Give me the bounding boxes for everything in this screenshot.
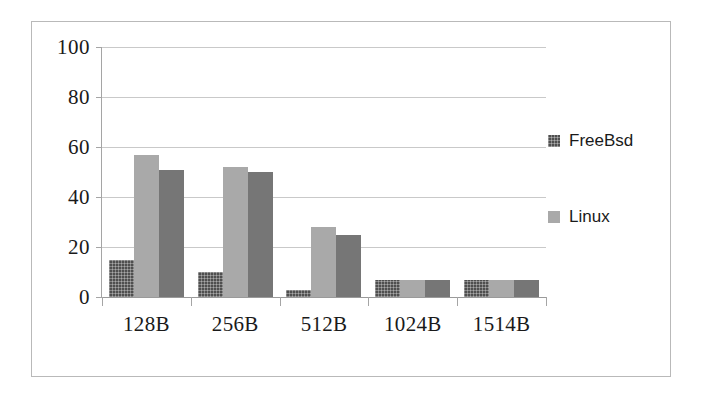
bar[interactable] <box>134 155 159 298</box>
bar-group <box>191 47 280 297</box>
bar-group <box>102 47 191 297</box>
x-axis-tick-labels: 128B256B512B1024B1514B <box>102 312 546 337</box>
bar[interactable] <box>311 227 336 297</box>
bar[interactable] <box>489 280 514 298</box>
legend-label: Linux <box>569 207 610 227</box>
y-axis-tick-label: 0 <box>79 285 90 310</box>
bar-group <box>368 47 457 297</box>
bar[interactable] <box>400 280 425 298</box>
bar[interactable] <box>514 280 539 298</box>
legend-swatch-icon <box>548 135 560 147</box>
y-axis-tick-label: 80 <box>68 85 90 110</box>
y-axis-tick <box>96 197 102 198</box>
bar[interactable] <box>336 235 361 298</box>
bar[interactable] <box>286 290 311 298</box>
x-axis-tick <box>280 297 281 306</box>
y-axis-tick <box>96 247 102 248</box>
chart-legend: FreeBsdLinux <box>548 130 668 282</box>
y-axis-tick <box>96 147 102 148</box>
bar[interactable] <box>223 167 248 297</box>
bar[interactable] <box>109 260 134 298</box>
bar-groups <box>102 47 546 297</box>
bar[interactable] <box>375 280 400 298</box>
x-axis-ticks <box>102 297 546 307</box>
y-axis-tick-label: 20 <box>68 235 90 260</box>
bar[interactable] <box>248 172 273 297</box>
x-axis-tick <box>457 297 458 306</box>
bar[interactable] <box>464 280 489 298</box>
x-axis-tick <box>368 297 369 306</box>
y-axis-tick <box>96 97 102 98</box>
chart-frame: 020406080100 128B256B512B1024B1514B Free… <box>31 21 671 377</box>
bar[interactable] <box>425 280 450 298</box>
y-axis-tick-labels: 020406080100 <box>32 47 90 297</box>
x-axis-tick-label: 1024B <box>368 312 457 337</box>
legend-item[interactable]: FreeBsd <box>548 130 668 152</box>
x-axis-tick-label: 1514B <box>457 312 546 337</box>
y-axis-tick-label: 40 <box>68 185 90 210</box>
x-axis-tick <box>191 297 192 306</box>
y-axis-tick-label: 100 <box>57 35 90 60</box>
legend-swatch-icon <box>548 211 560 223</box>
plot-area <box>102 47 546 297</box>
legend-label: FreeBsd <box>569 131 633 151</box>
x-axis-tick <box>102 297 103 306</box>
y-axis-tick <box>96 47 102 48</box>
x-axis-tick <box>546 297 547 306</box>
bar[interactable] <box>159 170 184 298</box>
bar-group <box>457 47 546 297</box>
x-axis-tick-label: 128B <box>102 312 191 337</box>
legend-item[interactable]: Linux <box>548 206 668 228</box>
y-axis-tick-label: 60 <box>68 135 90 160</box>
x-axis-tick-label: 512B <box>280 312 369 337</box>
bar-group <box>280 47 369 297</box>
x-axis-tick-label: 256B <box>191 312 280 337</box>
bar[interactable] <box>198 272 223 297</box>
